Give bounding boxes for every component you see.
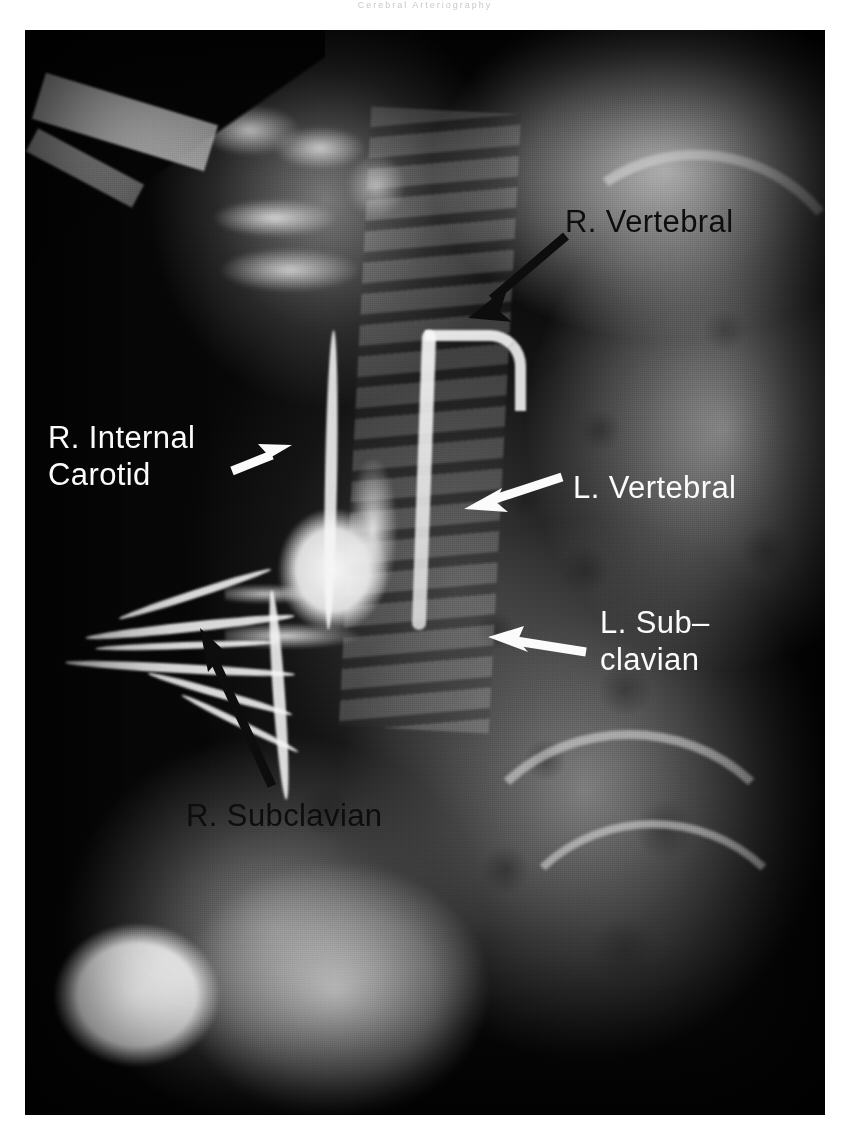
label-r-internal-carotid: R. Internal Carotid bbox=[48, 420, 195, 493]
page-header-text: Cerebral Arteriography bbox=[0, 0, 850, 12]
label-r-vertebral: R. Vertebral bbox=[565, 204, 734, 241]
label-r-subclavian: R. Subclavian bbox=[186, 798, 382, 835]
page-canvas: Cerebral Arteriography bbox=[0, 0, 850, 1131]
film-vignette bbox=[25, 30, 825, 1115]
label-l-vertebral: L. Vertebral bbox=[573, 470, 736, 507]
label-l-subclavian: L. Sub– clavian bbox=[600, 605, 710, 678]
radiograph-plate bbox=[25, 30, 825, 1115]
